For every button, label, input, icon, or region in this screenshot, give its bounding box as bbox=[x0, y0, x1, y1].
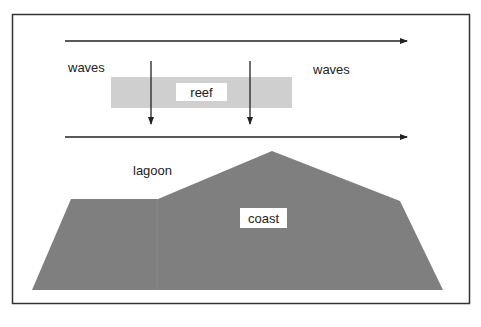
lagoon-label: lagoon bbox=[133, 164, 172, 177]
waves-label-right: waves bbox=[313, 63, 350, 76]
diagram-canvas bbox=[0, 0, 481, 327]
coast-label: coast bbox=[240, 208, 287, 228]
reef-label: reef bbox=[176, 83, 227, 101]
reef-lagoon-coast-diagram: waves waves reef lagoon coast bbox=[0, 0, 481, 327]
waves-label-left: waves bbox=[68, 61, 105, 74]
coast-landmass bbox=[32, 151, 443, 290]
